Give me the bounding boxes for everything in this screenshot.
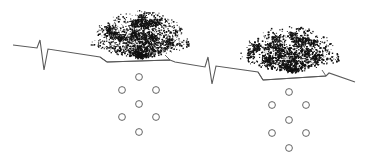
- shrub-left-root-circle-icon: [153, 87, 160, 94]
- shrub-right-root-circle-icon: [269, 130, 276, 137]
- shrub-right-root-circle-icon: [303, 130, 310, 137]
- shrub-planting-diagram: [0, 0, 368, 167]
- shrub-left-root-circle-icon: [119, 114, 126, 121]
- shrub-right-root-circle-icon: [269, 102, 276, 109]
- shrub-right-root-circle-icon: [286, 117, 293, 124]
- shrub-right-root-circle-icon: [303, 102, 310, 109]
- shrub-right-foliage: [240, 26, 339, 74]
- shrub-left-foliage: [91, 10, 190, 59]
- holes-layer: [119, 74, 310, 152]
- shrub-left-root-circle-icon: [136, 129, 143, 136]
- shrub-left-root-circle-icon: [119, 87, 126, 94]
- shrub-right-root-circle-icon: [286, 89, 293, 96]
- shrub-left-root-circle-icon: [136, 101, 143, 108]
- foliage-layer: [91, 10, 340, 74]
- shrub-left-root-circle-icon: [153, 114, 160, 121]
- shrub-left-root-circle-icon: [136, 74, 143, 81]
- shrub-right-root-circle-icon: [286, 145, 293, 152]
